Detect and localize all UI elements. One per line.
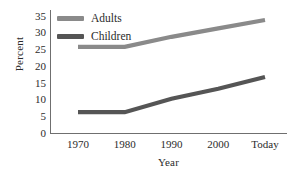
y-tick-label: 15 <box>24 78 46 89</box>
series-line-children <box>78 77 265 112</box>
y-tick-label: 10 <box>24 94 46 105</box>
legend-label: Adults <box>91 12 122 24</box>
y-tick-label: 20 <box>24 61 46 72</box>
line-chart-figure: Percent 05101520253035 1970198019902000T… <box>0 0 297 177</box>
y-tick-label: 0 <box>24 128 46 139</box>
y-tick-label: 30 <box>24 27 46 38</box>
legend-swatch-icon <box>57 34 84 39</box>
legend-label: Children <box>91 30 131 42</box>
legend-item-children: Children <box>57 29 131 43</box>
y-tick-label: 35 <box>24 11 46 22</box>
y-tick-label: 25 <box>24 44 46 55</box>
y-tick-label: 5 <box>24 111 46 122</box>
legend-swatch-icon <box>57 16 84 21</box>
x-axis-title: Year <box>50 156 287 168</box>
y-axis-tick-labels: 05101520253035 <box>22 0 46 177</box>
legend-item-adults: Adults <box>57 11 131 25</box>
chart-legend: AdultsChildren <box>57 11 131 43</box>
x-tick-label: Today <box>237 138 293 150</box>
